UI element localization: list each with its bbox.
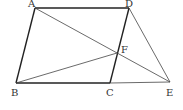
segment-bf: [16, 53, 117, 83]
segment-ce: [110, 82, 170, 83]
label-f: F: [121, 44, 128, 55]
label-c: C: [106, 87, 114, 98]
label-a: A: [27, 0, 36, 9]
segment-ab: [16, 8, 35, 83]
geometry-diagram: A D B C E F: [0, 0, 183, 110]
label-b: B: [11, 87, 18, 98]
label-d: D: [125, 0, 133, 9]
label-e: E: [166, 87, 173, 98]
